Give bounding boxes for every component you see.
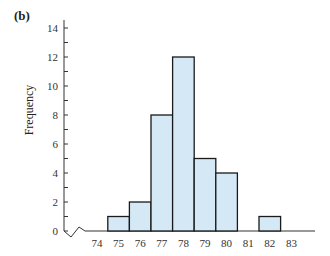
y-tick-label: 8 <box>53 109 59 121</box>
x-tick-label: 75 <box>113 237 125 249</box>
x-tick-label: 83 <box>286 237 298 249</box>
x-tick-label: 80 <box>221 237 233 249</box>
y-tick-label: 2 <box>53 196 59 208</box>
x-tick-label: 77 <box>156 237 168 249</box>
x-tick-label: 76 <box>135 237 147 249</box>
histogram: 0246810121474757677787980818283 <box>0 0 330 256</box>
histogram-bar-76 <box>129 202 151 231</box>
x-tick-label: 81 <box>243 237 254 249</box>
y-tick-label: 6 <box>53 138 59 150</box>
y-tick-label: 14 <box>47 22 59 34</box>
y-tick-label: 10 <box>47 80 59 92</box>
x-tick-label: 78 <box>178 237 190 249</box>
histogram-bar-82 <box>259 217 281 232</box>
y-tick-label: 0 <box>53 225 59 237</box>
x-tick-label: 79 <box>200 237 212 249</box>
histogram-bar-80 <box>216 173 238 231</box>
y-tick-label: 4 <box>53 167 59 179</box>
histogram-bar-78 <box>173 57 195 231</box>
x-tick-label: 82 <box>264 237 275 249</box>
histogram-bar-79 <box>194 159 216 232</box>
y-tick-label: 12 <box>47 51 58 63</box>
histogram-bar-75 <box>108 217 130 232</box>
x-tick-label: 74 <box>92 237 104 249</box>
histogram-bar-77 <box>151 115 173 231</box>
